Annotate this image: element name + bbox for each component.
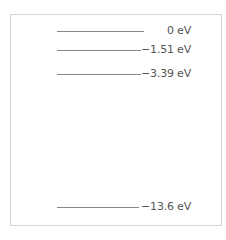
energy-level-0: 0 eV: [0, 26, 226, 38]
level-label: −3.39 eV: [141, 67, 191, 81]
level-label: −1.51 eV: [141, 43, 191, 57]
energy-level-1: −1.51 eV: [0, 45, 226, 57]
level-label: 0 eV: [167, 24, 191, 38]
level-label: −13.6 eV: [141, 200, 191, 214]
energy-level-3: −13.6 eV: [0, 202, 226, 214]
energy-level-2: −3.39 eV: [0, 69, 226, 81]
level-line: [57, 50, 141, 51]
level-line: [57, 31, 144, 32]
level-line: [57, 207, 139, 208]
level-line: [57, 74, 141, 75]
